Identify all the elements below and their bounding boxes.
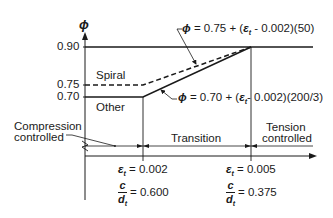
y-axis-label: ϕ [79, 18, 89, 31]
ratio-value-0375: = 0.375 [238, 187, 277, 199]
eps-limit-0005: εt = 0.005 [226, 164, 276, 177]
arrow-compression-icon [137, 144, 143, 148]
compression-leader [66, 135, 115, 146]
x-axis-arrow-icon [309, 153, 317, 159]
y-tick-070: 0.70 [57, 91, 79, 103]
ratio-value-0600: = 0.600 [130, 187, 169, 199]
tension-label-line2: controlled [262, 133, 312, 145]
c-over-dt-fraction-2: c dt [226, 180, 235, 207]
y-tick-090: 0.90 [57, 41, 79, 53]
y-axis-arrow-icon [82, 32, 88, 40]
other-label: Other [96, 102, 125, 114]
compression-label-line2: controlled [14, 132, 64, 144]
arrow-tension-icon [251, 144, 257, 148]
transition-label: Transition [171, 133, 221, 145]
spiral-equation: ϕ = 0.75 + (εt - 0.002)(50) [182, 23, 314, 36]
c-over-dt-fraction-1: c dt [118, 180, 127, 207]
arrow-transition-left-icon [143, 144, 149, 148]
y-tick-075: 0.75 [57, 79, 79, 91]
other-equation: ϕ = 0.70 + (εt- 0.002)(200/3) [178, 92, 323, 105]
arrow-transition-right-icon [245, 144, 251, 148]
eps-limit-0002: εt = 0.002 [118, 164, 168, 177]
spiral-label: Spiral [96, 70, 125, 82]
other-eq-leader [161, 90, 177, 99]
